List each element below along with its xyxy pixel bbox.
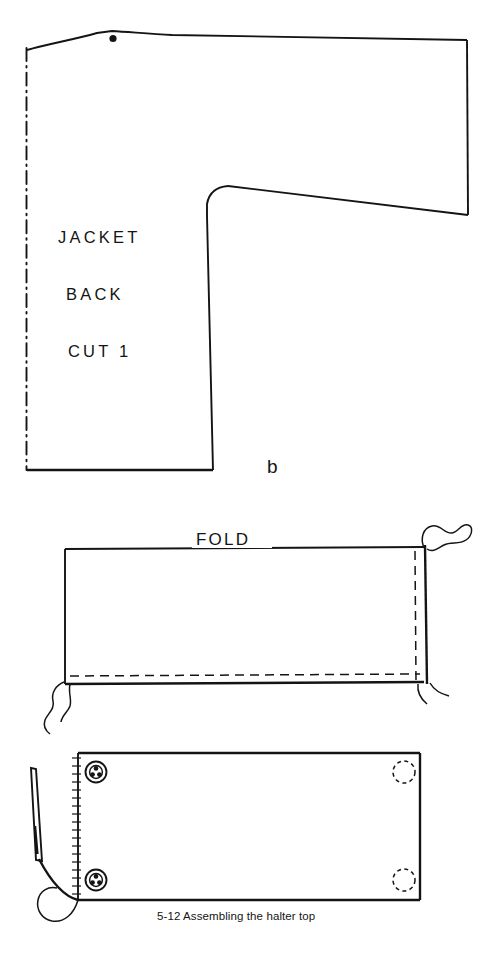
fold-right-stitch-line	[415, 551, 416, 681]
pattern-label-back: BACK	[66, 285, 124, 303]
fold-label: FOLD	[196, 530, 250, 549]
sleeve-cuff-edge	[467, 40, 468, 215]
figure-caption: 5-12 Assembling the halter top	[157, 910, 315, 922]
shoulder-dot-icon	[109, 35, 116, 42]
pattern-label-cut: CUT 1	[68, 342, 131, 360]
figure-canvas: JACKET BACK CUT 1 b FOLD	[0, 0, 495, 960]
pattern-label-jacket: JACKET	[58, 228, 140, 246]
pattern-figure: JACKET BACK CUT 1 b FOLD	[0, 0, 495, 960]
subfigure-label-b: b	[267, 456, 278, 477]
